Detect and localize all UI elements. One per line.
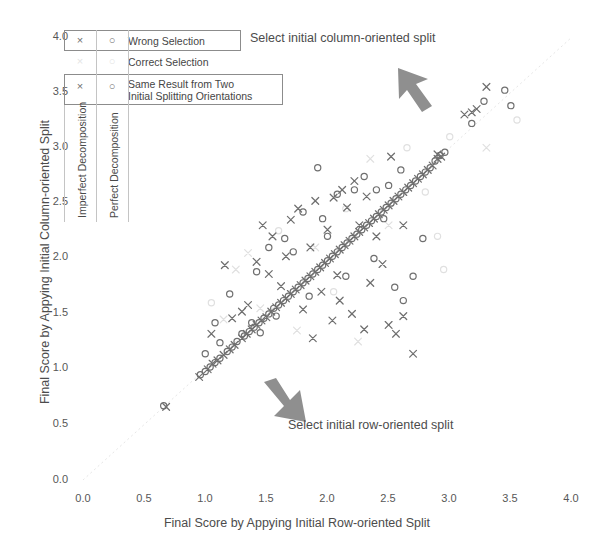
x-tick-0-0: 0.0 — [66, 492, 100, 504]
y-tick-3-0: 3.0 — [34, 140, 68, 152]
legend-marker-o-correct: ○ — [104, 55, 120, 67]
y-tick-2-0: 2.0 — [34, 250, 68, 262]
x-tick-1-5: 1.5 — [249, 492, 283, 504]
y-tick-3-5: 3.5 — [34, 85, 68, 97]
scatter-plot-figure: Final Score by Appying Initial Column-or… — [0, 0, 594, 556]
legend-marker-o-same: ○ — [104, 80, 120, 92]
y-tick-1-0: 1.0 — [34, 361, 68, 373]
y-tick-0-0: 0.0 — [34, 473, 68, 485]
y-tick-0-5: 0.5 — [34, 417, 68, 429]
y-tick-4-0: 4.0 — [34, 30, 68, 42]
x-tick-4-0: 4.0 — [554, 492, 588, 504]
x-tick-3-0: 3.0 — [432, 492, 466, 504]
x-tick-2-0: 2.0 — [310, 492, 344, 504]
arrow-up-left-icon — [392, 62, 452, 114]
annotation-column-oriented-label: Select initial column-oriented split — [250, 31, 436, 45]
x-tick-0-5: 0.5 — [127, 492, 161, 504]
legend-marker-x-same: × — [72, 80, 88, 92]
y-tick-1-5: 1.5 — [34, 306, 68, 318]
y-tick-2-5: 2.5 — [34, 195, 68, 207]
legend-label-same-result-line1: Same Result from Two — [128, 78, 234, 91]
legend-label-wrong-selection: Wrong Selection — [128, 35, 205, 48]
y-axis-title: Final Score by Appying Initial Column-or… — [38, 47, 52, 477]
x-tick-3-5: 3.5 — [493, 492, 527, 504]
x-tick-1-0: 1.0 — [188, 492, 222, 504]
legend-label-same-result-line2: Initial Splitting Orientations — [128, 90, 252, 103]
legend-column-label-perfect: Perfect Decomposition — [108, 112, 120, 218]
legend-label-correct-selection: Correct Selection — [128, 56, 209, 69]
legend-marker-o-wrong: ○ — [104, 34, 120, 46]
legend-marker-x-wrong: × — [72, 34, 88, 46]
x-tick-2-5: 2.5 — [371, 492, 405, 504]
annotation-row-oriented-label: Select initial row-oriented split — [288, 418, 453, 432]
legend-column-divider-1 — [96, 30, 97, 222]
x-axis-title: Final Score by Appying Initial Row-orien… — [0, 516, 594, 530]
legend-column-divider-2 — [128, 30, 129, 222]
legend-column-label-imperfect: Imperfect Decomposition — [76, 102, 88, 218]
legend-column-divider-0 — [64, 105, 65, 222]
legend-marker-x-correct: × — [72, 55, 88, 67]
